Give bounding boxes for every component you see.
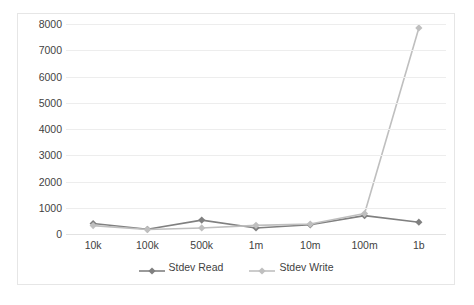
data-point-marker xyxy=(144,226,151,233)
data-point-marker xyxy=(198,224,205,231)
gridline xyxy=(66,50,446,51)
legend-item-label: Stdev Write xyxy=(279,262,333,273)
data-point-marker xyxy=(415,219,422,226)
y-axis-tick-label: 6000 xyxy=(20,71,62,82)
gridline xyxy=(66,129,446,130)
y-axis-tick-label: 3000 xyxy=(20,150,62,161)
data-point-marker xyxy=(415,24,422,31)
x-axis: 10k100k500k1m10m100m1b xyxy=(66,240,446,258)
x-axis-tick-label: 10m xyxy=(300,240,320,251)
chart-legend: Stdev ReadStdev Write xyxy=(18,262,454,273)
y-axis-tick-label: 1000 xyxy=(20,203,62,214)
x-axis-tick-label: 100k xyxy=(136,240,159,251)
x-axis-tick-label: 10k xyxy=(85,240,102,251)
gridline xyxy=(66,103,446,104)
data-point-marker xyxy=(198,216,205,223)
legend-marker-icon xyxy=(249,262,275,272)
gridline xyxy=(66,208,446,209)
legend-item-label: Stdev Read xyxy=(169,262,224,273)
gridline xyxy=(66,234,446,235)
y-axis-tick-label: 7000 xyxy=(20,45,62,56)
gridline xyxy=(66,155,446,156)
y-axis-tick-label: 5000 xyxy=(20,98,62,109)
y-axis: 010002000300040005000600070008000 xyxy=(18,24,62,234)
gridline xyxy=(66,182,446,183)
y-axis-tick-label: 8000 xyxy=(20,19,62,30)
legend-item[interactable]: Stdev Read xyxy=(139,262,224,273)
x-axis-tick-label: 1m xyxy=(249,240,264,251)
line-chart: 010002000300040005000600070008000 10k100… xyxy=(17,13,455,285)
y-axis-tick-label: 0 xyxy=(20,229,62,240)
legend-item[interactable]: Stdev Write xyxy=(249,262,333,273)
data-point-marker xyxy=(307,220,314,227)
x-axis-tick-label: 1b xyxy=(413,240,425,251)
plot-area xyxy=(66,24,446,234)
y-axis-tick-label: 2000 xyxy=(20,176,62,187)
gridline xyxy=(66,77,446,78)
y-axis-tick-label: 4000 xyxy=(20,124,62,135)
x-axis-tick-label: 100m xyxy=(351,240,377,251)
legend-marker-icon xyxy=(139,262,165,272)
gridline xyxy=(66,24,446,25)
x-axis-tick-label: 500k xyxy=(190,240,213,251)
